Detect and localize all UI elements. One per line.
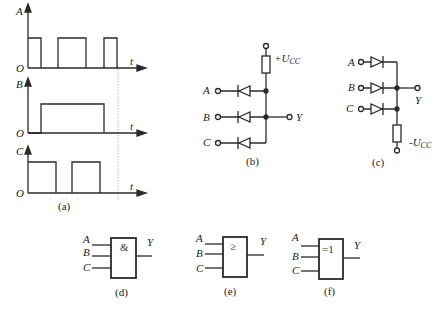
arrow-up-icon: [25, 4, 31, 12]
arrow-up-icon: [25, 146, 31, 154]
origin-label: O: [16, 62, 24, 74]
signal-a-label: A: [15, 5, 23, 17]
input-b-label: B: [292, 250, 299, 262]
output-label: Y: [260, 235, 268, 247]
diode-icon: [371, 56, 383, 68]
signal-b-label: B: [16, 78, 23, 90]
output-label: Y: [354, 239, 362, 251]
arrow-right-icon: [137, 190, 146, 196]
input-b-label: B: [83, 246, 90, 258]
diode-icon: [238, 137, 250, 149]
resistor-icon: [262, 56, 270, 73]
output-label: Y: [147, 236, 155, 248]
origin-label: O: [16, 127, 24, 139]
time-label: t: [130, 55, 134, 67]
input-c-label: C: [292, 264, 300, 276]
diode-icon: [371, 103, 383, 115]
arrow-right-icon: [137, 65, 146, 71]
caption-a: (a): [58, 200, 71, 213]
logic-circuit-figure: A O t B O t C O t (a) +UCC A B C Y (b): [0, 0, 441, 314]
waveform-panel: [25, 4, 146, 200]
signal-b: [25, 78, 146, 136]
terminal-icon: [264, 44, 269, 49]
input-c-label: C: [83, 261, 91, 273]
resistor-icon: [393, 125, 401, 142]
diode-icon: [238, 111, 250, 123]
origin-label: O: [16, 187, 24, 199]
signal-c: [25, 146, 146, 196]
caption-f: (f): [324, 285, 335, 298]
input-a-label: A: [82, 233, 90, 245]
input-a-label: A: [291, 231, 299, 243]
signal-c-label: C: [16, 145, 24, 157]
supply-label: -UCC: [409, 136, 432, 150]
signal-a: [25, 4, 146, 71]
input-c-label: C: [203, 136, 211, 148]
input-c-label: C: [346, 102, 354, 114]
input-b-label: B: [348, 81, 355, 93]
input-c-label: C: [196, 262, 204, 274]
diode-icon: [238, 85, 250, 97]
input-a-label: A: [202, 84, 210, 96]
arrow-right-icon: [137, 130, 146, 136]
supply-label: +UCC: [274, 52, 301, 66]
time-label: t: [130, 120, 134, 132]
gate-symbol: &: [120, 241, 129, 253]
input-a-label: A: [347, 56, 355, 68]
gate-symbol: =1: [322, 243, 334, 255]
arrow-up-icon: [25, 78, 31, 86]
output-label: Y: [415, 94, 423, 106]
input-b-label: B: [196, 247, 203, 259]
input-a-label: A: [195, 232, 203, 244]
caption-d: (d): [115, 286, 128, 299]
time-label: t: [130, 180, 134, 192]
output-label: Y: [296, 111, 304, 123]
caption-e: (e): [224, 285, 237, 298]
diode-icon: [371, 82, 383, 94]
caption-b: (b): [246, 155, 259, 168]
input-b-label: B: [203, 111, 210, 123]
caption-c: (c): [372, 156, 385, 169]
gate-symbol: ≥: [230, 240, 236, 252]
